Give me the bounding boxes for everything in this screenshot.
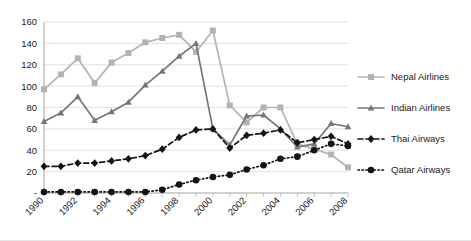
- data-point-marker-square: [92, 80, 98, 86]
- x-axis-tick-label: 2002: [225, 195, 248, 218]
- data-point-marker-circle: [108, 189, 115, 196]
- data-point-marker-square: [261, 105, 267, 111]
- legend-item-indian-airlines[interactable]: Indian Airlines: [358, 102, 450, 113]
- data-point-marker-circle: [226, 172, 233, 179]
- data-point-marker-circle: [311, 147, 318, 154]
- x-axis-tick-label-text: 1990: [23, 195, 46, 218]
- x-axis-tick-label-text: 1994: [90, 195, 113, 218]
- legend-label: Thai Airways: [391, 133, 445, 144]
- y-axis-tick-label: 40: [26, 145, 37, 156]
- y-axis-tick-label: 80: [26, 102, 37, 113]
- series-qatar-airways: [41, 141, 352, 196]
- data-point-marker-diamond: [91, 159, 98, 167]
- data-point-marker-diamond: [159, 145, 166, 153]
- data-point-marker-diamond: [193, 126, 200, 134]
- data-point-marker-square: [125, 50, 131, 56]
- legend-label: Qatar Airways: [391, 164, 450, 175]
- data-point-marker-square: [142, 39, 148, 45]
- legend-item-qatar-airways[interactable]: Qatar Airways: [358, 164, 450, 175]
- data-point-marker-diamond: [328, 132, 335, 140]
- y-axis-tick-label: 60: [26, 123, 37, 134]
- data-point-marker-circle: [91, 189, 98, 196]
- data-point-marker-circle: [193, 177, 200, 184]
- y-axis-tick-label: 140: [21, 38, 37, 49]
- series-thai-airways: [41, 125, 352, 170]
- x-axis-tick-label-text: 2006: [293, 195, 316, 218]
- x-axis-tick-label: 1996: [124, 195, 147, 218]
- data-point-marker-circle: [74, 189, 81, 196]
- x-axis-tick-label-text: 2002: [225, 195, 248, 218]
- x-axis-tick-label: 1994: [90, 195, 113, 218]
- data-point-marker-diamond: [176, 134, 183, 142]
- data-point-marker-diamond: [41, 162, 48, 170]
- data-point-marker-square: [227, 102, 233, 108]
- data-point-marker-triangle: [193, 40, 200, 46]
- x-axis-tick-label: 1990: [23, 195, 46, 218]
- x-axis-tick-label: 2008: [327, 195, 350, 218]
- data-point-marker-triangle: [74, 93, 81, 99]
- series-nepal-airlines: [41, 28, 351, 171]
- data-point-marker-circle: [328, 141, 335, 148]
- x-axis-tick-label-text: 1992: [56, 195, 79, 218]
- x-axis-tick-label: 1992: [56, 195, 79, 218]
- data-point-marker-circle: [243, 166, 250, 173]
- y-axis-tick-label: 20: [26, 166, 37, 177]
- x-axis-tick-label: 1998: [158, 195, 181, 218]
- data-point-marker-circle: [345, 143, 352, 150]
- data-point-marker-square: [176, 32, 182, 38]
- data-point-marker-diamond: [74, 159, 81, 167]
- data-point-marker-square: [159, 35, 165, 41]
- data-point-marker-square: [75, 55, 81, 61]
- x-axis-tick-label-text: 2008: [327, 195, 350, 218]
- y-axis-tick-label: 100: [21, 81, 37, 92]
- data-point-marker-diamond: [142, 152, 149, 160]
- data-point-marker-circle: [41, 189, 48, 196]
- data-point-marker-circle: [294, 153, 301, 160]
- x-axis-tick-label-text: 2000: [192, 195, 215, 218]
- data-point-marker-diamond: [57, 162, 64, 170]
- x-axis-tick-label: 2004: [259, 195, 282, 218]
- legend-swatch-marker-diamond: [368, 135, 375, 143]
- legend-swatch-marker-circle: [368, 167, 375, 174]
- x-axis-tick-label: 2000: [192, 195, 215, 218]
- x-axis-tick-label-text: 2004: [259, 195, 282, 218]
- data-point-marker-square: [41, 86, 47, 92]
- x-axis-tick-label-text: 1996: [124, 195, 147, 218]
- data-point-marker-circle: [58, 189, 65, 196]
- y-axis-tick-label: 120: [21, 59, 37, 70]
- data-point-marker-diamond: [125, 155, 132, 163]
- legend-label: Nepal Airlines: [391, 71, 449, 82]
- chart-frame: -204060801001201401601990199219941996199…: [0, 0, 471, 241]
- legend-item-thai-airways[interactable]: Thai Airways: [358, 133, 445, 144]
- series-line: [44, 129, 348, 166]
- data-point-marker-circle: [159, 186, 166, 193]
- data-point-marker-square: [328, 152, 334, 158]
- data-point-marker-circle: [260, 162, 267, 169]
- data-point-marker-square: [58, 71, 64, 77]
- legend-label: Indian Airlines: [391, 102, 450, 113]
- data-point-marker-circle: [142, 189, 149, 196]
- data-point-marker-square: [109, 60, 115, 66]
- data-point-marker-diamond: [311, 136, 318, 144]
- data-point-marker-square: [345, 164, 351, 170]
- data-point-marker-diamond: [108, 157, 115, 165]
- x-axis-tick-label: 2006: [293, 195, 316, 218]
- x-axis-tick-label-text: 1998: [158, 195, 181, 218]
- data-point-marker-square: [210, 28, 216, 34]
- data-point-marker-circle: [277, 156, 284, 163]
- data-point-marker-square: [277, 105, 283, 111]
- legend-swatch-marker-square: [368, 74, 374, 80]
- line-chart: -204060801001201401601990199219941996199…: [0, 0, 471, 241]
- data-point-marker-triangle: [328, 120, 335, 126]
- data-point-marker-circle: [125, 189, 132, 196]
- data-point-marker-circle: [176, 181, 183, 188]
- data-point-marker-circle: [210, 174, 217, 181]
- y-axis-tick-label: 160: [21, 16, 37, 27]
- series-line: [44, 144, 348, 192]
- legend-item-nepal-airlines[interactable]: Nepal Airlines: [358, 71, 449, 82]
- data-point-marker-diamond: [260, 129, 267, 137]
